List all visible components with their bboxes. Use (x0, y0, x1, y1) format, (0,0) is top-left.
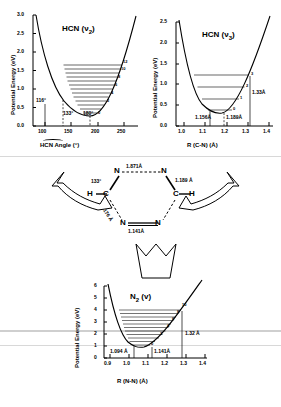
level-label: 10 (121, 66, 125, 71)
ytick-label: 4 (94, 306, 97, 312)
xtick-label: 1.1 (199, 128, 206, 134)
chart-hcn-v3-title-end: ) (232, 30, 235, 39)
xtick-label: 1.3 (180, 360, 187, 366)
level-label: 2 (246, 83, 248, 88)
annotation-1189A: 1.189Å (226, 114, 242, 120)
chart-n2-v-title-end: (v) (139, 292, 151, 301)
ytick-label: 1.0 (160, 80, 167, 86)
chart-n2-v-title: N2 (v) (130, 292, 151, 303)
level-label: 0 (233, 106, 235, 111)
chart-n2-v-xlabel: R (N-N) (Å) (117, 378, 148, 384)
annotation-132A: 1.32 Å (185, 330, 200, 336)
level-label: 8 (118, 74, 120, 79)
ytick-label: 2.0 (160, 39, 167, 45)
ytick-label: 0 (94, 354, 97, 360)
chart-hcn-v3-title-main: HCN ( (202, 30, 224, 39)
level-label: 0 (151, 341, 153, 346)
xtick-label: 1.0 (178, 128, 185, 134)
level-label: 10 (182, 302, 186, 307)
annotation-1141A: 1.141Å (154, 348, 170, 354)
xtick-label: 200 (91, 128, 99, 134)
annotation-133A: 1.33Å (252, 89, 265, 95)
annotation-1094A: 1.094 Å (110, 348, 128, 354)
ytick-label: 6 (94, 282, 97, 288)
annotation-116deg: 116° (36, 97, 46, 103)
xtick-label: 0.9 (104, 360, 111, 366)
chart-hcn-v2-xlabel: HCN Angle (°) (40, 142, 79, 148)
ytick-label: 2.5 (160, 18, 167, 24)
ytick-label: 0.0 (17, 122, 24, 128)
chart-hcn-v3-title: HCN (ν3) (202, 30, 235, 41)
chart-n2-v: Potential Energy (eV) (62, 268, 222, 378)
arrow-upper-right (179, 172, 239, 210)
level-label: 8 (177, 309, 179, 314)
chart-hcn-v2-title-main: HCN ( (62, 24, 84, 33)
ytick-label: 1.5 (160, 60, 167, 66)
ytick-label: 0.5 (17, 104, 24, 110)
ytick-label: 3 (94, 318, 97, 324)
ytick-label: 2 (94, 330, 97, 336)
annotation-180deg: 180° (83, 110, 93, 116)
level-label: 1 (240, 95, 242, 100)
ytick-label: 1.5 (17, 67, 24, 73)
ytick-label: 5 (94, 294, 97, 300)
chart-hcn-v3: Potential Energy (eV) (140, 0, 281, 148)
annotation-133deg: 133° (63, 110, 73, 116)
chart-hcn-v2: Potential Energy (eV) (0, 0, 146, 148)
xtick-label: 100 (38, 128, 46, 134)
xtick-label: 1.1 (142, 360, 149, 366)
arrow-upper-left (52, 172, 112, 210)
level-label: 4 (111, 90, 113, 95)
level-label: 12 (123, 59, 127, 64)
ytick-label: 1 (94, 342, 97, 348)
xtick-label: 1.2 (161, 360, 168, 366)
ytick-label: 3.0 (17, 11, 24, 17)
xtick-label: 250 (117, 128, 125, 134)
level-label: 6 (115, 82, 117, 87)
xtick-label: 1.4 (263, 128, 270, 134)
ytick-label: 2.5 (17, 30, 24, 36)
level-label: 3 (251, 71, 253, 76)
annotation-1156A: 1.156Å (195, 114, 211, 120)
ytick-label: 1.0 (17, 85, 24, 91)
xtick-label: 1.3 (242, 128, 249, 134)
level-label: 0 (98, 110, 100, 115)
xtick-label: 1.0 (123, 360, 130, 366)
level-label: 6 (172, 316, 174, 321)
ytick-label: 0.5 (160, 101, 167, 107)
chart-hcn-v3-xlabel: R (C-N) (Å) (187, 142, 218, 148)
level-label: 4 (167, 323, 169, 328)
xtick-label: 1.4 (199, 360, 206, 366)
ytick-label: 2.0 (17, 48, 24, 54)
level-label: 2 (107, 98, 109, 103)
ytick-label: 0.0 (160, 122, 167, 128)
xtick-label: 150 (64, 128, 72, 134)
xtick-label: 1.2 (221, 128, 228, 134)
chart-hcn-v2-title-end: ) (92, 24, 95, 33)
level-label: 2 (160, 331, 162, 336)
chart-hcn-v2-title: HCN (ν2) (62, 24, 95, 35)
